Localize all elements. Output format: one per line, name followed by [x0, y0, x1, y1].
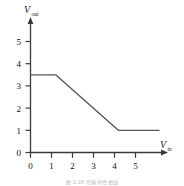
- figure-caption: 图 3-28 传输特性曲线: [0, 179, 184, 186]
- y-tick-label-4: 4: [17, 59, 22, 69]
- y-tick-label-3: 3: [17, 81, 22, 91]
- y-axis-arrowhead: [28, 17, 34, 24]
- y-tick-marks: [26, 42, 31, 153]
- y-tick-label-5: 5: [17, 37, 22, 47]
- x-tick-label-4: 4: [112, 161, 117, 171]
- y-tick-label-2: 2: [17, 104, 22, 114]
- x-tick-label-5: 5: [133, 161, 138, 171]
- x-tick-label-3: 3: [91, 161, 96, 171]
- x-axis-label-subscript: in: [168, 146, 173, 152]
- y-axis-label-subscript: out: [32, 11, 40, 17]
- x-tick-label-2: 2: [70, 161, 75, 171]
- x-tick-label-1: 1: [49, 161, 54, 171]
- plot-area: 0 1 2 3 4 5 0 1 2 3 4 5 V out V in: [0, 0, 184, 186]
- transfer-characteristic-figure: 0 1 2 3 4 5 0 1 2 3 4 5 V out V in 图 3-2…: [0, 0, 184, 186]
- x-tick-label-0: 0: [28, 161, 33, 171]
- y-tick-label-1: 1: [17, 126, 22, 136]
- x-tick-marks: [31, 153, 136, 158]
- y-tick-label-0: 0: [17, 148, 22, 158]
- transfer-curve: [31, 75, 160, 131]
